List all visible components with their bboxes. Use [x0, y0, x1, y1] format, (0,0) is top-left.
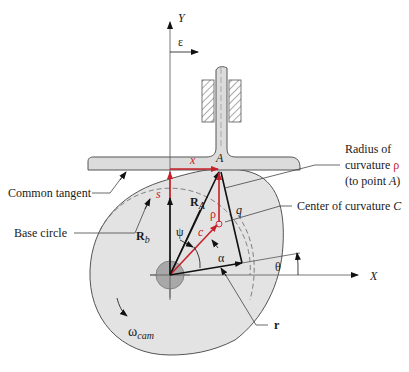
guide-bushing-left [202, 80, 214, 122]
offset-epsilon: ε [170, 35, 198, 52]
callout-common-tangent: Common tangent [8, 172, 126, 200]
x-axis-label: X [369, 269, 378, 283]
rho-label: ρ [210, 207, 216, 221]
guide-bushing-right [229, 80, 241, 122]
q-label: q [236, 203, 242, 217]
epsilon-label: ε [178, 35, 183, 49]
s-label: s [156, 187, 161, 201]
radius-line-3: (to point A) [345, 174, 400, 188]
alpha-label: α [218, 251, 225, 265]
y-axis-label: Y [178, 11, 186, 25]
radius-line-1: Radius of [345, 142, 391, 156]
point-a-label: A [215, 151, 224, 165]
psi-label: ψ [176, 225, 184, 239]
r-label: r [274, 318, 280, 332]
center-of-curvature-label: Center of curvature C [297, 199, 402, 213]
common-tangent-label: Common tangent [8, 186, 92, 200]
c-label: c [198, 225, 204, 239]
x-label: x [189, 153, 196, 167]
theta-label: θ [275, 260, 281, 274]
base-circle-label: Base circle [14, 226, 67, 240]
radius-line-2: curvature ρ [345, 158, 399, 172]
cam-diagram: Y X ε s x A RA Rb ρ [0, 0, 409, 372]
